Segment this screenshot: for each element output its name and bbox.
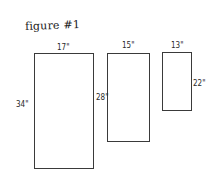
rectangle-3-width-label: 13" <box>171 41 183 50</box>
rectangle-3 <box>162 52 192 111</box>
rectangle-2-height-label: 28" <box>96 93 108 102</box>
figure-title: figure #1 <box>25 18 80 33</box>
rectangle-2 <box>107 53 150 142</box>
rectangle-2-width-label: 15" <box>122 41 134 50</box>
rectangle-1-height-label: 34" <box>16 100 28 109</box>
rectangle-1-width-label: 17" <box>57 43 69 52</box>
rectangle-1 <box>34 53 94 169</box>
rectangle-3-height-label: 22" <box>193 79 205 88</box>
